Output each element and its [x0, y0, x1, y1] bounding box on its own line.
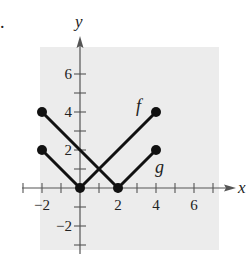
- y-axis-label: y: [73, 12, 83, 31]
- point-f: [151, 107, 161, 117]
- x-tick-label: 4: [152, 197, 160, 213]
- point-g: [151, 145, 161, 155]
- x-tick-label: 6: [190, 197, 198, 213]
- point-g: [37, 107, 47, 117]
- x-axis-label: x: [237, 178, 246, 197]
- x-tick-label: −2: [34, 197, 50, 213]
- y-tick-label: 4: [65, 104, 73, 120]
- chart: . −2246−2246 fg x y: [0, 0, 248, 259]
- point-g: [113, 183, 123, 193]
- y-tick-label: 2: [65, 142, 73, 158]
- y-tick-label: 6: [65, 66, 73, 82]
- series-label-g: g: [155, 157, 164, 177]
- x-tick-label: 2: [114, 197, 122, 213]
- point-f: [75, 183, 85, 193]
- y-tick-label: −2: [56, 218, 72, 234]
- figure-label: .: [0, 12, 5, 32]
- point-f: [37, 145, 47, 155]
